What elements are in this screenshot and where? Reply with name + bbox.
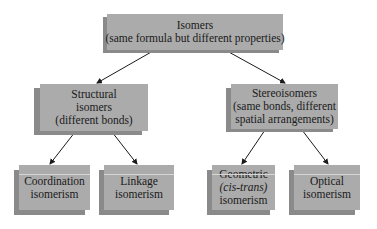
label-line: isomers: [76, 101, 112, 114]
label-line: isomerism: [220, 194, 268, 207]
label-line: (same bonds, different: [233, 100, 336, 113]
label-line-italic: (cis-trans): [220, 181, 268, 194]
label-line: (different bonds): [55, 114, 132, 127]
label-line: spatial arrangements): [235, 113, 334, 126]
arrow-stereo-geometric: [242, 130, 265, 164]
arrow-structural-coordination: [50, 132, 75, 164]
label-line: Isomers: [177, 19, 213, 32]
box-stereo: Stereoisomers (same bonds, different spa…: [231, 84, 338, 129]
arrow-structural-linkage: [112, 132, 137, 164]
box-optical: Optical isomerism: [294, 165, 360, 210]
label-line: isomerism: [303, 188, 351, 201]
label-line: Linkage: [120, 175, 158, 188]
box-coordination: Coordination isomerism: [19, 165, 90, 210]
box-geometric: Geometric (cis-trans) isomerism: [212, 165, 275, 210]
label-line: Structural: [71, 88, 116, 101]
box-linkage: Linkage isomerism: [104, 165, 174, 210]
arrow-isomers-structural: [97, 51, 153, 83]
label-line: isomerism: [31, 188, 79, 201]
arrow-isomers-stereo: [227, 51, 285, 83]
label-line: (same formula but different properties): [105, 32, 284, 45]
label-line: Stereoisomers: [252, 87, 317, 100]
box-isomers: Isomers (same formula but different prop…: [107, 14, 283, 50]
label-line: isomerism: [115, 188, 163, 201]
label-line: Optical: [310, 175, 344, 188]
box-structural: Structural isomers (different bonds): [40, 84, 148, 131]
label-line: Coordination: [24, 175, 85, 188]
arrow-stereo-optical: [302, 130, 328, 164]
